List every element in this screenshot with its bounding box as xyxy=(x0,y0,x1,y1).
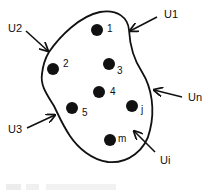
point-4: 4 xyxy=(93,86,116,98)
diagram-canvas: 1 2 3 4 5 j m U1 U2 Un U3 Ui xyxy=(0,0,206,192)
point-m: m xyxy=(104,133,126,146)
svg-text:Ui: Ui xyxy=(160,154,170,166)
point-3: 3 xyxy=(103,58,123,76)
svg-text:U3: U3 xyxy=(8,123,22,135)
svg-text:4: 4 xyxy=(110,86,116,97)
input-arrow-un: Un xyxy=(154,90,202,103)
svg-text:3: 3 xyxy=(117,65,123,76)
svg-text:2: 2 xyxy=(63,58,69,69)
svg-text:U1: U1 xyxy=(164,8,178,20)
point-j: j xyxy=(126,100,143,115)
point-1: 1 xyxy=(91,23,113,36)
input-arrow-u1: U1 xyxy=(130,8,178,31)
point-5: 5 xyxy=(66,102,88,118)
svg-text:1: 1 xyxy=(107,23,113,34)
svg-text:j: j xyxy=(140,104,143,115)
svg-text:m: m xyxy=(118,133,126,144)
svg-text:5: 5 xyxy=(82,107,88,118)
cropped-caption-fragment xyxy=(6,184,116,190)
point-2: 2 xyxy=(47,58,69,75)
svg-text:U2: U2 xyxy=(8,22,22,34)
input-arrow-ui: Ui xyxy=(134,131,170,166)
input-arrow-u3: U3 xyxy=(8,115,55,135)
input-arrow-u2: U2 xyxy=(8,22,48,51)
svg-text:Un: Un xyxy=(188,91,202,103)
